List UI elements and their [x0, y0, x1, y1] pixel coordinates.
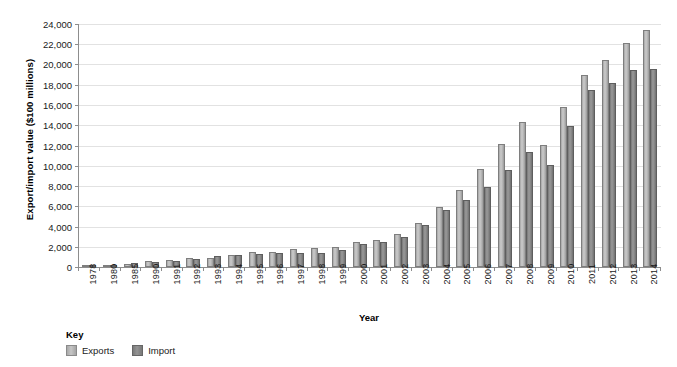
x-axis-tick-1998: 1998: [307, 267, 328, 313]
x-axis-tick-label: 2006: [483, 264, 493, 285]
bar-import-2004: [443, 210, 450, 267]
x-axis-tick-label: 2014: [649, 264, 659, 285]
bar-exports-2009: [540, 145, 547, 267]
bar-exports-2004: [436, 207, 443, 267]
bar-group: [121, 24, 142, 267]
legend-item-import[interactable]: Import: [132, 345, 175, 356]
x-axis-title: Year: [78, 312, 660, 323]
y-axis-tick-label: 2,000: [48, 241, 72, 252]
x-axis-tick-2001: 2001: [369, 267, 390, 313]
x-axis-tick-1978: 1978: [78, 267, 99, 313]
bar-exports-2007: [498, 144, 505, 267]
bar-group: [100, 24, 121, 267]
x-axis-tick-mark: [265, 267, 266, 271]
x-axis-tick-2011: 2011: [577, 267, 598, 313]
y-axis-tick-label: 14,000: [43, 120, 72, 131]
x-axis-tick-2007: 2007: [494, 267, 515, 313]
x-axis-tick-2009: 2009: [535, 267, 556, 313]
bar-group: [391, 24, 412, 267]
y-axis-tick-label: 22,000: [43, 39, 72, 50]
x-axis-tick-label: 1991: [172, 264, 182, 285]
legend: Key ExportsImport: [66, 329, 175, 356]
bar-import-2008: [526, 152, 533, 267]
x-axis-tick-1995: 1995: [244, 267, 265, 313]
bar-exports-2010: [560, 107, 567, 267]
x-axis-tick-1990: 1990: [140, 267, 161, 313]
bar-import-2005: [463, 200, 470, 267]
clipped-header-text: [0, 0, 677, 5]
bar-group: [495, 24, 516, 267]
legend-item-exports[interactable]: Exports: [66, 345, 114, 356]
x-axis-tick-1999: 1999: [327, 267, 348, 313]
x-axis-tick-mark: [223, 267, 224, 271]
bar-exports-2008: [519, 122, 526, 267]
legend-swatch-icon: [132, 345, 143, 356]
x-axis-tick-mark: [390, 267, 391, 271]
bar-group: [349, 24, 370, 267]
bar-import-2006: [484, 187, 491, 267]
x-axis-tick-mark: [452, 267, 453, 271]
bar-group: [536, 24, 557, 267]
x-axis-tick-mark: [161, 267, 162, 271]
bar-group: [183, 24, 204, 267]
x-axis-tick-label: 2008: [525, 264, 535, 285]
bar-exports-2011: [581, 75, 588, 267]
bar-group: [432, 24, 453, 267]
x-axis-tick-mark: [327, 267, 328, 271]
bar-group: [245, 24, 266, 267]
bar-import-2012: [609, 83, 616, 267]
bar-exports-2012: [602, 60, 609, 267]
x-axis-tick-label: 1995: [255, 264, 265, 285]
x-axis-tick-label: 1990: [151, 264, 161, 285]
y-axis-tick-label: 18,000: [43, 79, 72, 90]
bar-import-2014: [650, 69, 657, 267]
legend-swatch-icon: [66, 345, 77, 356]
x-axis-tick-mark: [203, 267, 204, 271]
bar-group: [453, 24, 474, 267]
x-axis-tick-1980: 1980: [99, 267, 120, 313]
x-axis-tick-1997: 1997: [286, 267, 307, 313]
bar-group: [578, 24, 599, 267]
bar-group: [224, 24, 245, 267]
x-axis-tick-label: 1996: [275, 264, 285, 285]
x-axis-tick-2005: 2005: [452, 267, 473, 313]
bar-group: [619, 24, 640, 267]
x-axis-end-tick: [660, 267, 661, 271]
y-axis-tick-label: 24,000: [43, 19, 72, 30]
y-axis-tick-label: 6,000: [48, 201, 72, 212]
x-axis-tick-2004: 2004: [431, 267, 452, 313]
x-axis-tick-label: 2005: [462, 264, 472, 285]
x-axis-tick-label: 1980: [109, 264, 119, 285]
x-axis-tick-1985: 1985: [120, 267, 141, 313]
x-axis-tick-mark: [99, 267, 100, 271]
bar-group: [308, 24, 329, 267]
x-axis-tick-2014: 2014: [639, 267, 660, 313]
x-axis-tick-mark: [535, 267, 536, 271]
y-axis-tick-label: 20,000: [43, 59, 72, 70]
x-axis-tick-label: 1993: [213, 264, 223, 285]
x-axis-tick-label: 2000: [359, 264, 369, 285]
bar-group: [328, 24, 349, 267]
x-axis-tick-mark: [78, 267, 79, 271]
bar-exports-2014: [643, 30, 650, 267]
x-axis-tick-mark: [431, 267, 432, 271]
y-axis-tick-label: 8,000: [48, 180, 72, 191]
bar-group: [557, 24, 578, 267]
x-axis-tick-label: 2001: [379, 264, 389, 285]
x-axis-tick-2003: 2003: [411, 267, 432, 313]
x-axis-tick-label: 2013: [629, 264, 639, 285]
x-axis-tick-label: 1994: [234, 264, 244, 285]
x-axis-tick-1996: 1996: [265, 267, 286, 313]
y-axis-title: Export/import value ($100 millions): [24, 25, 35, 255]
x-axis-tick-mark: [286, 267, 287, 271]
y-axis-tick-label: 12,000: [43, 140, 72, 151]
x-axis-tick-label: 1978: [88, 264, 98, 285]
x-axis-tick-mark: [307, 267, 308, 271]
bar-import-2003: [422, 225, 429, 267]
x-axis-tick-mark: [556, 267, 557, 271]
plot-area: 02,0004,0006,0008,00010,00012,00014,0001…: [78, 24, 661, 268]
legend-label: Import: [148, 345, 175, 356]
bar-group: [287, 24, 308, 267]
bar-exports-2002: [394, 234, 401, 267]
bar-exports-2013: [623, 43, 630, 267]
